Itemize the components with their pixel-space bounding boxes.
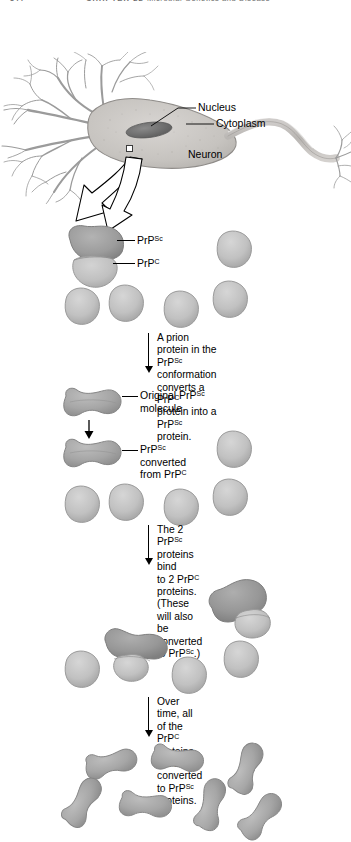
- leader-prpsc-1: [117, 240, 135, 241]
- cytoplasm-callout-marker: [126, 145, 133, 152]
- running-head-chapter: CHAPTER 22: [86, 0, 144, 3]
- prpc-blob: [155, 288, 203, 332]
- prpc-blob: [215, 638, 263, 682]
- label-prpc-1: PrPC: [137, 257, 160, 270]
- prpc-blob: [163, 654, 211, 698]
- prpc-blob: [56, 285, 104, 329]
- prpc-blob: [208, 228, 256, 272]
- prpsc-original-blob: [60, 386, 126, 420]
- prpc-blob: [204, 476, 252, 520]
- label-original-prpsc: Original PrPSc molecule: [140, 389, 250, 414]
- label-neuron: Neuron: [188, 148, 222, 161]
- prpsc-blob-final: [146, 740, 210, 780]
- running-head-text: CHAPTER 22 Microbial Genetics and Diseas…: [86, 0, 270, 3]
- leader-prpc-1: [113, 263, 135, 264]
- prpc-blob: [100, 282, 148, 326]
- prpc-blob: [56, 483, 104, 527]
- caption-1-text: A prion protein in the PrPSc conformatio…: [157, 332, 217, 444]
- leader-original-prpsc: [122, 396, 138, 397]
- figure-page: 544 CHAPTER 22 Microbial Genetics and Di…: [0, 0, 351, 842]
- label-cytoplasm: Cytoplasm: [216, 117, 266, 130]
- running-head-title: Microbial Genetics and Disease: [147, 0, 270, 3]
- page-folio: 544: [10, 0, 23, 3]
- stage3-bound-complex: [202, 578, 286, 640]
- prpc-blob: [56, 648, 104, 692]
- running-head: 544 CHAPTER 22 Microbial Genetics and Di…: [0, 0, 351, 4]
- prpc-blob: [100, 481, 148, 525]
- prpsc-converted-blob: [60, 437, 126, 471]
- prpc-blob: [204, 278, 252, 322]
- leader-converted-prpsc: [122, 450, 138, 451]
- label-nucleus: Nucleus: [198, 101, 236, 114]
- prpsc-blob-final: [114, 787, 177, 825]
- label-prpsc-1: PrPSc: [137, 234, 163, 247]
- prpc-blob: [208, 428, 256, 472]
